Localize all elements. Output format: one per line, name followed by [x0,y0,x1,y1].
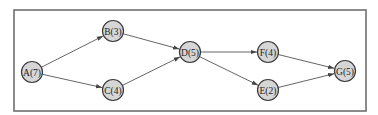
node-c: C(4) [103,80,124,101]
edge-e-to-g [278,74,334,88]
node-b: B(3) [103,21,124,42]
node-g: G(5) [335,61,356,82]
edge-c-to-d [122,57,180,85]
edge-d-to-e [199,57,258,86]
node-d: D(5) [180,42,201,63]
edge-a-to-b [41,36,103,67]
node-label: F(4) [260,48,276,59]
nodes-layer: A(7)B(3)C(4)D(5)F(4)E(2)G(5) [22,21,356,101]
edge-a-to-c [42,74,102,87]
edge-f-to-g [278,55,334,69]
activity-network-diagram: A(7)B(3)C(4)D(5)F(4)E(2)G(5) [0,0,378,115]
node-e: E(2) [258,80,279,101]
node-label: D(5) [181,48,199,59]
node-a: A(7) [22,62,43,83]
node-label: C(4) [104,86,121,97]
node-label: E(2) [260,86,277,97]
node-f: F(4) [258,42,279,63]
node-label: G(5) [336,67,354,78]
node-label: A(7) [23,68,41,79]
node-label: B(3) [104,27,121,38]
edge-b-to-d [123,34,179,49]
